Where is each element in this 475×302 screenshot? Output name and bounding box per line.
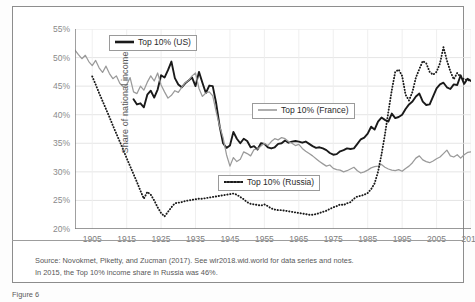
footnote-divider: [12, 240, 464, 241]
gridlines: [75, 29, 471, 229]
y-tick-label: 20%: [53, 224, 70, 234]
x-tick-label: 1955: [255, 234, 274, 244]
legend-label-us: Top 10% (US): [138, 38, 191, 47]
y-tick-label: 35%: [53, 138, 70, 148]
figure-container: Share of national income (%) 20%25%30%35…: [0, 0, 475, 302]
x-tick-label: 1965: [289, 234, 308, 244]
y-tick-label: 50%: [53, 53, 70, 63]
data-series: [75, 47, 471, 216]
legend-label-france: Top 10% (France): [281, 106, 349, 115]
x-tick-label: 1905: [83, 234, 102, 244]
y-tick-label: 25%: [53, 195, 70, 205]
legend-item-russia[interactable]: Top 10% (Russia): [218, 175, 320, 191]
footnote-detail: In 2015, the Top 10% income share in Rus…: [35, 267, 445, 279]
x-tick-label: 1915: [117, 234, 136, 244]
x-tick-label: 1995: [393, 234, 412, 244]
footnotes: Source: Novokmet, Piketty, and Zucman (2…: [35, 255, 445, 278]
x-tick-label: 1935: [186, 234, 205, 244]
legend-swatch-russia: [224, 178, 243, 186]
y-tick-label: 40%: [53, 110, 70, 120]
legend-item-france[interactable]: Top 10% (France): [252, 103, 355, 119]
axis-ticks: [75, 29, 471, 229]
figure-caption: Figure 6: [12, 290, 39, 299]
legend-swatch-us: [115, 38, 134, 46]
y-tick-label: 55%: [53, 24, 70, 34]
legend-swatch-france: [258, 106, 277, 114]
legend-label-russia: Top 10% (Russia): [247, 178, 314, 187]
footnote-source: Source: Novokmet, Piketty, and Zucman (2…: [35, 255, 445, 267]
plot-area: Share of national income (%) 20%25%30%35…: [75, 29, 471, 229]
chart-panel: Share of national income (%) 20%25%30%35…: [12, 6, 464, 283]
y-tick-label: 30%: [53, 167, 70, 177]
x-tick-label: 1985: [358, 234, 377, 244]
x-tick-label: 1945: [220, 234, 239, 244]
x-tick-label: 2005: [427, 234, 446, 244]
x-tick-label: 2015: [462, 234, 475, 244]
y-tick-label: 45%: [53, 81, 70, 91]
x-tick-label: 1925: [152, 234, 171, 244]
legend-item-us[interactable]: Top 10% (US): [109, 35, 197, 51]
x-tick-label: 1975: [324, 234, 343, 244]
chart-svg: [75, 29, 471, 229]
